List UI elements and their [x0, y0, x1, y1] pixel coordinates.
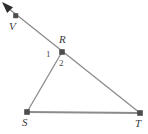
point-label-r: R [59, 34, 66, 45]
point-marker-t [137, 110, 143, 116]
angle-label-1: 1 [46, 50, 51, 59]
point-label-v: V [9, 21, 16, 32]
point-marker-v [13, 13, 18, 18]
point-marker-s [24, 109, 30, 115]
segment-st-line [27, 112, 140, 113]
point-label-s: S [22, 117, 28, 128]
point-marker-r [59, 49, 65, 55]
ray-v-r-t-line [8, 8, 140, 113]
geometry-canvas [0, 0, 148, 134]
point-label-t: T [135, 118, 141, 129]
segment-rs-line [27, 52, 62, 112]
geometry-figure: V R S T 1 2 [0, 0, 148, 134]
angle-label-2: 2 [59, 59, 64, 68]
